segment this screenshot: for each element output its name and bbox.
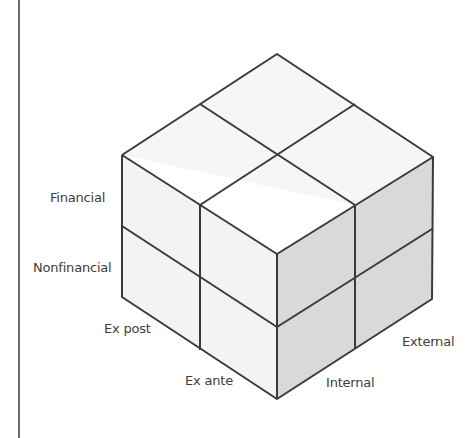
label-internal: Internal: [326, 376, 375, 389]
label-ex-ante: Ex ante: [185, 374, 233, 387]
label-financial: Financial: [50, 191, 105, 204]
label-ex-post: Ex post: [104, 322, 151, 335]
cube-top-face: [122, 54, 433, 205]
label-external: External: [402, 335, 454, 348]
cube-diagram: [0, 0, 476, 438]
label-nonfinancial: Nonfinancial: [33, 261, 112, 274]
